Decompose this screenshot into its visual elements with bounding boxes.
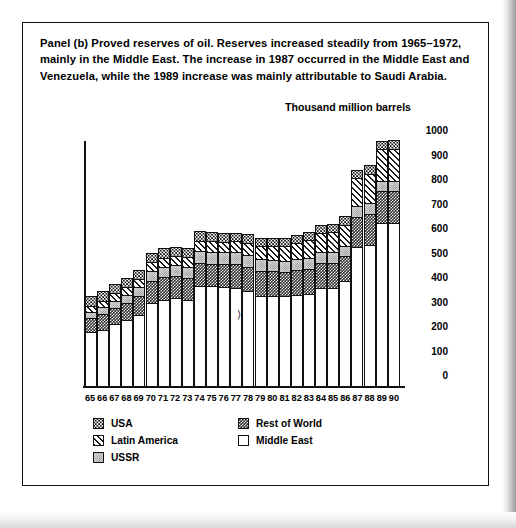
- bar-segment: [389, 141, 399, 149]
- bar-segment: [256, 239, 266, 247]
- bar-segment: [340, 226, 350, 247]
- bar-segment: [328, 264, 338, 288]
- bar-segment: [256, 272, 266, 298]
- axis-break-mark: ⟩: [237, 308, 241, 321]
- bar-segment: [304, 259, 314, 270]
- bar-segment: [98, 331, 108, 386]
- bar-90: [388, 140, 400, 386]
- legend-column-1: USALatin AmericaUSSR: [93, 418, 238, 463]
- legend-item-middle_east: Middle East: [238, 435, 322, 446]
- page-edge-shadow-right: [502, 0, 516, 528]
- page-edge-shadow-bottom: [0, 512, 516, 528]
- bar-segment: [352, 218, 362, 248]
- bar-65: [85, 296, 97, 386]
- bar-segment: [389, 192, 399, 224]
- x-tick-label: 76: [218, 393, 230, 403]
- bar-segment: [122, 279, 132, 288]
- bar-segment: [86, 319, 96, 333]
- x-tick-label: 84: [315, 393, 327, 403]
- x-tick-label: 72: [169, 393, 181, 403]
- x-tick-label: 80: [266, 393, 278, 403]
- bar-segment: [377, 192, 387, 224]
- legend-item-latin_america: Latin America: [93, 435, 238, 446]
- x-tick-label: 73: [181, 393, 193, 403]
- bar-segment: [340, 282, 350, 386]
- bar-segment: [243, 292, 253, 386]
- bar-segment: [171, 277, 181, 299]
- bar-segment: [98, 292, 108, 302]
- bar-segment: [328, 289, 338, 387]
- bar-segment: [134, 316, 144, 386]
- legend-item-rest_of_world: Rest of World: [238, 418, 322, 429]
- bar-segment: [292, 296, 302, 386]
- bar-segment: [304, 233, 314, 241]
- y-tick-label: 1000: [426, 125, 448, 136]
- y-axis-title: Thousand million barrels: [285, 101, 411, 113]
- bar-segment: [134, 280, 144, 288]
- bar-86: [339, 216, 351, 386]
- bar-segment: [256, 247, 266, 260]
- figure-panel-b: Panel (b) Proved reserves of oil. Reserv…: [22, 22, 489, 486]
- bar-78: [242, 234, 254, 386]
- bar-segment: [110, 309, 120, 325]
- bar-85: [327, 224, 339, 386]
- bar-segment: [352, 248, 362, 386]
- bar-segment: [304, 270, 314, 295]
- bar-segment: [280, 273, 290, 298]
- bar-segment: [352, 207, 362, 217]
- panel-caption: Panel (b) Proved reserves of oil. Reserv…: [40, 35, 470, 84]
- bar-segment: [122, 321, 132, 386]
- x-tick-label: 87: [351, 393, 363, 403]
- x-tick-label: 82: [291, 393, 303, 403]
- bar-segment: [340, 257, 350, 282]
- bar-segment: [365, 166, 375, 174]
- bar-segment: [195, 232, 205, 242]
- x-tick-label: 70: [145, 393, 157, 403]
- x-tick-label: 68: [120, 393, 132, 403]
- bar-segment: [110, 302, 120, 309]
- bar-segment: [147, 263, 157, 272]
- bar-segment: [304, 241, 314, 259]
- bar-segment: [122, 304, 132, 322]
- bar-segment: [195, 287, 205, 386]
- bar-segment: [231, 265, 241, 288]
- bar-segment: [243, 235, 253, 243]
- bar-segment: [147, 272, 157, 282]
- bar-segment: [159, 268, 169, 279]
- bar-67: [109, 284, 121, 386]
- bar-segment: [171, 299, 181, 386]
- bar-segment: [195, 242, 205, 252]
- bar-72: [170, 247, 182, 386]
- bar-segment: [86, 333, 96, 386]
- bar-segment: [243, 256, 253, 268]
- bar-segment: [86, 297, 96, 307]
- bar-segment: [219, 288, 229, 386]
- bar-segment: [207, 242, 217, 253]
- legend-item-ussr: USSR: [93, 452, 238, 463]
- x-axis-labels: 6566676869707172737475767778798081828384…: [85, 393, 400, 403]
- bar-74: [194, 231, 206, 386]
- bar-segment: [134, 297, 144, 317]
- legend-swatch-usa: [93, 418, 104, 429]
- bar-segment: [147, 304, 157, 386]
- bar-segment: [207, 253, 217, 265]
- bar-segment: [256, 297, 266, 386]
- bar-segment: [328, 253, 338, 264]
- stacked-bar-chart: Thousand million barrels 010020030040050…: [85, 123, 400, 386]
- bar-segment: [268, 272, 278, 297]
- bar-segment: [365, 175, 375, 205]
- bar-segment: [365, 204, 375, 214]
- bar-73: [182, 248, 194, 386]
- bar-segment: [377, 150, 387, 183]
- chart-legend: USALatin AmericaUSSR Rest of WorldMiddle…: [93, 418, 403, 463]
- bar-segment: [340, 247, 350, 258]
- bar-79: [255, 238, 267, 386]
- legend-label-ussr: USSR: [111, 452, 139, 463]
- legend-column-2: Rest of WorldMiddle East: [238, 418, 322, 463]
- bar-segment: [365, 246, 375, 386]
- bar-89: [376, 141, 388, 387]
- x-tick-label: 74: [193, 393, 205, 403]
- x-tick-label: 69: [133, 393, 145, 403]
- x-tick-label: 88: [364, 393, 376, 403]
- bar-segment: [280, 262, 290, 273]
